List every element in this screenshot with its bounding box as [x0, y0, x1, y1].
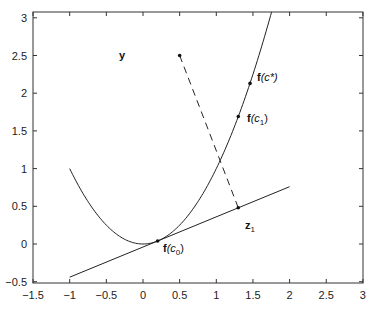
x-tick-label: 0.5	[172, 289, 187, 301]
x-tick-label: 2.5	[319, 289, 334, 301]
y-tick-label: 1.5	[12, 125, 27, 137]
plot-frame	[33, 12, 363, 283]
x-tick-label: 3	[360, 289, 366, 301]
plot-series	[70, 0, 290, 277]
tangent-line	[70, 187, 290, 277]
label-f-c1: f(c1)	[247, 112, 268, 127]
y-tick-label: 2	[21, 87, 27, 99]
chart: −1.5−1−0.500.511.522.53−0.500.511.522.53…	[0, 0, 376, 309]
y-tick-label: 0.5	[12, 200, 27, 212]
x-tick-label: 1.5	[245, 289, 260, 301]
x-tick-label: 2	[287, 289, 293, 301]
point-marker	[156, 239, 160, 243]
x-tick-label: 1	[213, 289, 219, 301]
point-marker	[236, 206, 240, 210]
x-tick-label: 0	[140, 289, 146, 301]
x-tick-label: −1.5	[22, 289, 44, 301]
label-f-c0: f(c0)	[163, 242, 184, 257]
dashed-projection-line	[180, 56, 239, 208]
parabola-curve	[70, 0, 275, 244]
label-z1: z1	[245, 219, 256, 234]
y-tick-label: 1	[21, 163, 27, 175]
y-tick-label: 0	[21, 238, 27, 250]
data-points	[156, 54, 252, 243]
point-marker	[248, 82, 252, 86]
axis-ticks: −1.5−1−0.500.511.522.53−0.500.511.522.53	[5, 12, 366, 301]
y-tick-label: 2.5	[12, 50, 27, 62]
y-tick-label: 3	[21, 12, 27, 24]
x-tick-label: −0.5	[95, 289, 117, 301]
label-y: y	[119, 49, 126, 61]
label-f-cstar: f(c*)	[257, 71, 278, 83]
point-marker	[178, 54, 182, 58]
point-marker	[236, 115, 240, 119]
x-tick-label: −1	[63, 289, 76, 301]
y-tick-label: −0.5	[5, 276, 27, 288]
